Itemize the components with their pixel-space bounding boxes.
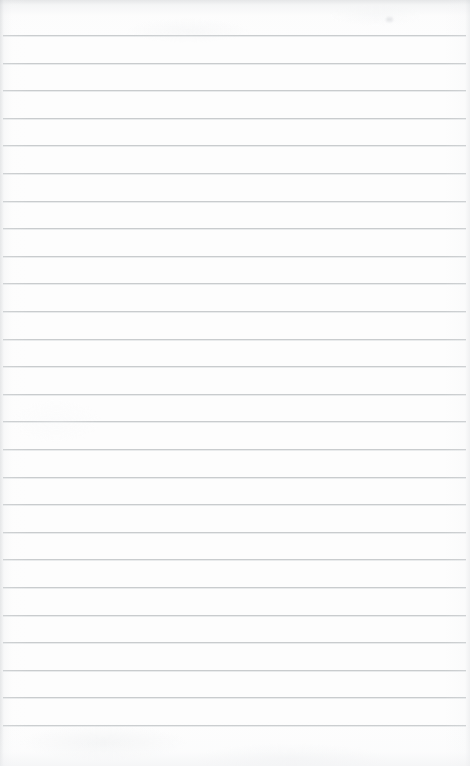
rule-line [3,725,466,726]
rule-line [3,421,466,422]
rule-line [3,366,466,367]
rule-line [3,449,466,450]
rule-line [3,63,466,64]
rule-line [3,477,466,478]
rule-line [3,90,466,91]
rule-line [3,504,466,505]
rule-line [3,173,466,174]
rule-line [3,615,466,616]
rule-line [3,587,466,588]
rule-line [3,228,466,229]
rule-line [3,339,466,340]
rule-line [3,394,466,395]
rule-line [3,118,466,119]
rule-line [3,311,466,312]
rule-line [3,283,466,284]
scanned-page [0,0,470,766]
rule-line [3,697,466,698]
rule-line [3,201,466,202]
rule-line [3,642,466,643]
rule-line [3,670,466,671]
rule-line [3,256,466,257]
ruled-lines-group [0,0,470,766]
rule-line [3,559,466,560]
rule-line [3,532,466,533]
rule-line [3,35,466,36]
rule-line [3,145,466,146]
